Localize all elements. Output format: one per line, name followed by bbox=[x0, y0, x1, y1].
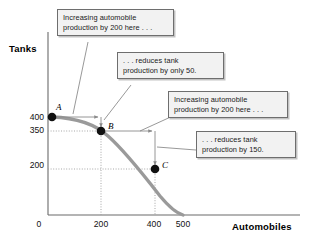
guide-lines bbox=[48, 131, 155, 215]
x-tick-500: 500 bbox=[170, 219, 196, 229]
point-b bbox=[97, 127, 106, 136]
point-c bbox=[151, 165, 160, 174]
point-label-c: C bbox=[162, 160, 168, 170]
data-points bbox=[48, 113, 160, 174]
point-label-b: B bbox=[108, 121, 114, 131]
y-tick-350: 350 bbox=[20, 125, 44, 135]
point-label-a: A bbox=[56, 102, 62, 112]
callout-4-line-1: . . . reduces tank bbox=[202, 135, 291, 145]
callout-3-line-1: Increasing automobile bbox=[174, 95, 283, 105]
callout-increase-autos-b-to-c: Increasing automobile production by 200 … bbox=[168, 91, 288, 118]
callout-increase-autos-a-to-b: Increasing automobile production by 200 … bbox=[57, 9, 174, 36]
callout-1-line-2: production by 200 here . . . bbox=[63, 23, 169, 33]
x-axis-title: Automobiles bbox=[232, 221, 292, 232]
callout-3-line-2: production by 200 here . . . bbox=[174, 105, 283, 115]
x-tick-200: 200 bbox=[88, 219, 114, 229]
x-tick-400: 400 bbox=[141, 219, 167, 229]
callout-reduce-tanks-150: . . . reduces tank production by 150. bbox=[196, 131, 296, 158]
y-tick-200: 200 bbox=[20, 160, 44, 170]
callout-4-line-2: production by 150. bbox=[202, 145, 291, 155]
chart-canvas bbox=[0, 0, 316, 252]
callout-2-line-2: production by only 50. bbox=[123, 66, 219, 76]
ppf-chart-figure: A B C Tanks Automobiles 400 350 200 0 20… bbox=[0, 0, 316, 252]
callout-1-line-1: Increasing automobile bbox=[63, 13, 169, 23]
x-tick-0: 0 bbox=[26, 219, 52, 229]
callout-reduce-tanks-50: . . . reduces tank production by only 50… bbox=[117, 52, 224, 79]
y-tick-400: 400 bbox=[20, 112, 44, 122]
point-a bbox=[48, 113, 57, 122]
callout-2-line-1: . . . reduces tank bbox=[123, 56, 219, 66]
y-axis-title: Tanks bbox=[9, 43, 37, 54]
